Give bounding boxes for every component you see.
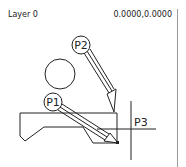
drawing-canvas[interactable]: P2 P1 P3 xyxy=(0,0,186,167)
p1-label: P1 xyxy=(46,96,60,109)
p3-label: P3 xyxy=(134,116,148,129)
pencil-upper[interactable] xyxy=(84,49,116,112)
p2-label: P2 xyxy=(74,39,88,52)
pencil-tip-point xyxy=(116,141,119,144)
large-circle[interactable] xyxy=(45,59,75,89)
pencil-lower[interactable] xyxy=(58,104,118,143)
